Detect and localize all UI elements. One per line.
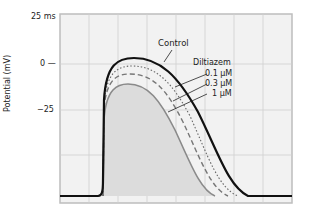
label-dose-1: 1 μM [212, 89, 232, 98]
label-dose-0.1: 0.1 μM [205, 69, 232, 78]
label-control: Control [158, 38, 189, 48]
y-axis-label: Potential (mV) [3, 55, 12, 112]
label-diltiazem: Diltiazem [193, 58, 231, 67]
y-tick-minus-25: −25 [37, 105, 54, 114]
y-tick-0: 0 — [40, 59, 56, 68]
label-dose-0.3: 0.3 μM [205, 79, 232, 88]
scale-bar-label: 25 ms [31, 12, 56, 21]
